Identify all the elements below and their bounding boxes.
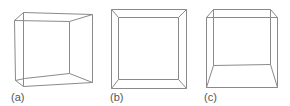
panel-b-label: (b) <box>110 91 123 103</box>
panel-a-label: (a) <box>11 91 24 103</box>
cube-edge <box>16 81 24 87</box>
cube-edge <box>271 65 278 88</box>
cube-edge <box>15 21 70 22</box>
cube-edge <box>25 74 70 79</box>
cube-edge <box>24 13 93 15</box>
cube-edge <box>70 74 93 83</box>
cube-edge <box>179 80 187 89</box>
cube-edge <box>24 83 93 87</box>
cube-edge <box>271 10 278 18</box>
cube-edge <box>207 66 214 88</box>
panel-a <box>15 13 93 87</box>
panel-c-label: (c) <box>204 91 217 103</box>
cube-edge <box>179 10 187 18</box>
cube-edge <box>112 80 119 89</box>
cube-edge <box>70 15 93 22</box>
cube-edge <box>214 65 271 66</box>
cube-edge <box>15 13 24 21</box>
cube-edge <box>112 10 119 18</box>
panel-b <box>112 10 187 89</box>
cube-edge <box>15 21 16 81</box>
cube-edge <box>207 10 214 18</box>
cube-figure: (a) (b) (c) <box>0 0 290 106</box>
panel-c <box>207 10 278 88</box>
